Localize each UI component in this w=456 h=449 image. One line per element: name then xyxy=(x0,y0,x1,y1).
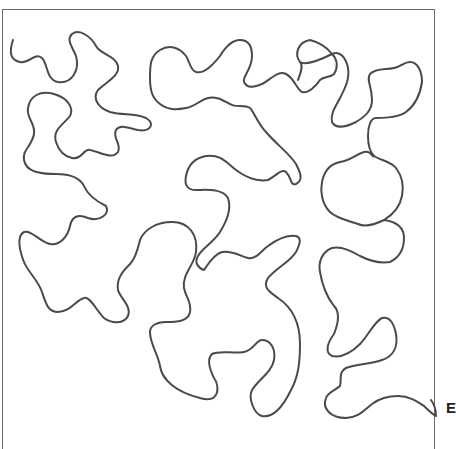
end-label: E xyxy=(446,399,456,416)
